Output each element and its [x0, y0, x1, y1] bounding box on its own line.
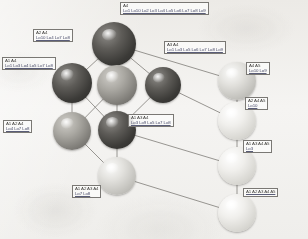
- label-objects: Lo3: [246, 147, 269, 152]
- node-specular-highlight: [226, 108, 239, 119]
- node-specular-highlight: [106, 163, 119, 174]
- node-specular-highlight: [226, 68, 239, 79]
- lattice-node-bottom-mid[interactable]: [98, 157, 136, 195]
- concept-label-a3a4[interactable]: A3 A4Lo1 Lo3 Lo5 Lo6 Lo7 Lo8 Lo9: [164, 41, 226, 54]
- concept-label-a1a2a3a4a5[interactable]: A1 A2 A3 A4 A5: [243, 188, 278, 197]
- concept-label-a2a4a5[interactable]: A2 A4 A5Lo10: [245, 97, 268, 110]
- concept-label-a2a4[interactable]: A2 A4Lo10 Lo4 Lo7 Lo8: [33, 29, 73, 42]
- concept-label-a1a2a3a4[interactable]: A1 A2 A3 A4Lo7 Lo8: [72, 185, 101, 198]
- lattice-node-left-lower[interactable]: [53, 112, 91, 150]
- label-objects: Lo3 Lo9 Lo5 Lo7 Lo8: [131, 121, 171, 126]
- concept-label-top[interactable]: A4Lo1 Lo10 Lo2 Lo3 Lo4 Lo5 Lo6 Lo7 Lo8 L…: [120, 2, 209, 15]
- node-specular-highlight: [106, 71, 120, 82]
- node-specular-highlight: [61, 69, 75, 80]
- label-objects: Lo10 Lo9: [249, 69, 267, 74]
- lattice-node-left-upper[interactable]: [52, 63, 92, 103]
- diagram-canvas: A4Lo1 Lo10 Lo2 Lo3 Lo4 Lo5 Lo6 Lo7 Lo8 L…: [0, 0, 308, 239]
- lattice-node-center-mid[interactable]: [97, 65, 137, 105]
- node-specular-highlight: [106, 117, 119, 128]
- label-objects: Lo10: [248, 104, 265, 109]
- label-objects: Lo1 Lo10 Lo2 Lo3 Lo4 Lo5 Lo6 Lo7 Lo8 Lo9: [123, 9, 206, 14]
- label-objects: Lo7 Lo8: [75, 192, 98, 197]
- label-objects: Lo1 Lo3 Lo5 Lo6 Lo7 Lo8 Lo9: [167, 48, 223, 53]
- node-specular-highlight: [61, 118, 74, 129]
- lattice-node-right-mid[interactable]: [145, 67, 181, 103]
- concept-label-a1a3a4a5[interactable]: A1 A3 A4 A5Lo3: [243, 140, 272, 153]
- label-attributes: A1 A2 A3 A4 A5: [246, 190, 275, 195]
- label-objects: Lo10 Lo4 Lo7 Lo8: [36, 36, 70, 41]
- concept-label-a1a4[interactable]: A1 A4Lo1 Lo3 Lo4 Lo5 Lo7 Lo8: [2, 57, 56, 70]
- node-specular-highlight: [226, 153, 239, 164]
- concept-label-a4a5[interactable]: A4 A5Lo10 Lo9: [246, 62, 270, 75]
- lattice-node-top[interactable]: [92, 22, 136, 66]
- label-objects: Lo1 Lo3 Lo4 Lo5 Lo7 Lo8: [5, 64, 53, 69]
- concept-label-a1a3a4[interactable]: A1 A3 A4Lo3 Lo9 Lo5 Lo7 Lo8: [128, 114, 174, 127]
- label-objects: Lo4 Lo7 Lo8: [6, 127, 29, 132]
- node-specular-highlight: [102, 29, 117, 41]
- lattice-node-r4[interactable]: [218, 194, 256, 232]
- concept-label-a1a2a4[interactable]: A1 A2 A4Lo4 Lo7 Lo8: [3, 120, 32, 133]
- node-specular-highlight: [153, 73, 165, 83]
- node-specular-highlight: [226, 200, 239, 211]
